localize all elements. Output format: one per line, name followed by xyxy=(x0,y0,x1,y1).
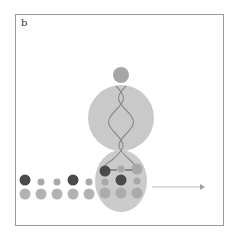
top-bead xyxy=(113,67,129,83)
diagram-canvas xyxy=(0,0,235,232)
direction-arrow xyxy=(152,184,205,190)
upper-ellipse xyxy=(88,85,154,151)
